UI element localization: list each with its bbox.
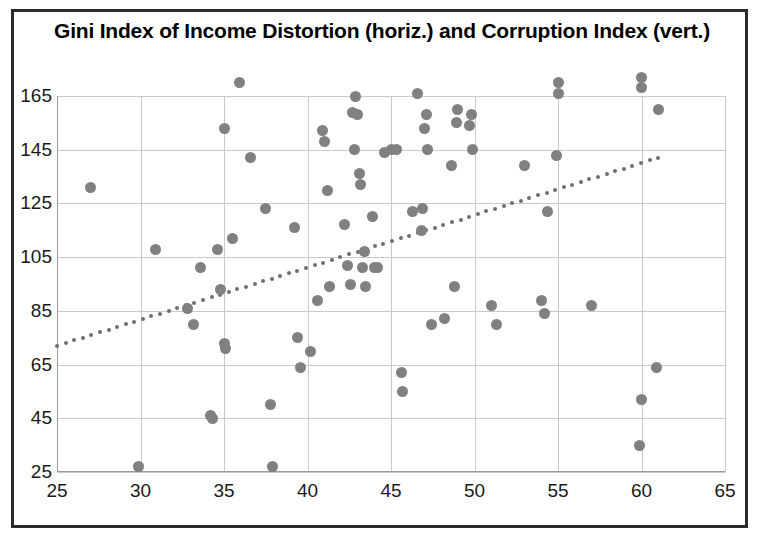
trendline-dot — [304, 266, 308, 270]
trendline-dot — [338, 255, 342, 259]
y-tick-label: 45 — [31, 407, 52, 429]
y-tick-label: 125 — [20, 192, 52, 214]
x-axis-line — [57, 471, 725, 472]
data-point — [317, 125, 328, 136]
y-tick-label: 145 — [20, 139, 52, 161]
data-point — [372, 262, 383, 273]
x-tick-label: 60 — [631, 480, 652, 502]
data-point — [466, 109, 477, 120]
data-point — [636, 72, 647, 83]
data-point — [452, 104, 463, 115]
trendline-dot — [570, 183, 574, 187]
trendline-dot — [467, 215, 471, 219]
y-tick-label: 65 — [31, 354, 52, 376]
data-point — [150, 244, 161, 255]
data-point — [295, 362, 306, 373]
trendline-dot — [330, 258, 334, 262]
x-tick-label: 40 — [297, 480, 318, 502]
trendline-dot — [64, 341, 68, 345]
data-point — [212, 244, 223, 255]
data-point — [651, 362, 662, 373]
data-point — [412, 88, 423, 99]
data-point — [85, 182, 96, 193]
data-point — [312, 295, 323, 306]
trendline-dot — [527, 196, 531, 200]
chart-canvas: Gini Index of Income Distortion (horiz.)… — [14, 12, 745, 525]
x-tick-label: 35 — [213, 480, 234, 502]
trendline-dot — [192, 301, 196, 305]
data-point — [354, 168, 365, 179]
data-point — [319, 136, 330, 147]
data-point — [449, 281, 460, 292]
data-point — [265, 399, 276, 410]
data-point — [486, 300, 497, 311]
trendline-dot — [124, 322, 128, 326]
data-point — [416, 225, 427, 236]
data-point — [519, 160, 530, 171]
gridline-vertical — [141, 96, 142, 472]
data-point — [536, 295, 547, 306]
trendline-dot — [493, 207, 497, 211]
trendline-dot — [141, 317, 145, 321]
data-point — [422, 144, 433, 155]
data-point — [396, 367, 407, 378]
data-point — [360, 281, 371, 292]
trendline-dot — [519, 199, 523, 203]
data-point — [260, 203, 271, 214]
trendline-dot — [459, 218, 463, 222]
data-point — [634, 440, 645, 451]
data-point — [355, 179, 366, 190]
trendline-dot — [381, 242, 385, 246]
gridline-vertical — [224, 96, 225, 472]
trendline-dot — [132, 320, 136, 324]
data-point — [359, 246, 370, 257]
trendline-dot — [553, 188, 557, 192]
gridline-vertical — [642, 96, 643, 472]
trendline-dot — [648, 158, 652, 162]
trendline-dot — [295, 269, 299, 273]
trendline-dot — [562, 185, 566, 189]
trendline-dot — [115, 325, 119, 329]
x-tick-label: 45 — [380, 480, 401, 502]
data-point — [467, 144, 478, 155]
trendline-dot — [605, 172, 609, 176]
chart-title: Gini Index of Income Distortion (horiz.)… — [44, 18, 720, 44]
data-point — [342, 260, 353, 271]
trendline-dot — [476, 212, 480, 216]
trendline-dot — [613, 169, 617, 173]
data-point — [215, 284, 226, 295]
data-point — [182, 303, 193, 314]
trendline-dot — [373, 244, 377, 248]
trendline-dot — [227, 290, 231, 294]
chart-frame: Gini Index of Income Distortion (horiz.)… — [11, 9, 748, 528]
data-point — [653, 104, 664, 115]
y-axis-tick-labels: 25456585105125145165 — [14, 96, 52, 472]
data-point — [292, 332, 303, 343]
data-point — [195, 262, 206, 273]
trendline-dot — [579, 180, 583, 184]
trendline-dot — [107, 328, 111, 332]
data-point — [636, 394, 647, 405]
y-tick-label: 165 — [20, 85, 52, 107]
gridline-horizontal — [57, 472, 725, 473]
x-tick-label: 55 — [547, 480, 568, 502]
data-point — [439, 313, 450, 324]
trendline-dot — [98, 330, 102, 334]
data-point — [636, 82, 647, 93]
data-point — [446, 160, 457, 171]
data-point — [352, 109, 363, 120]
data-point — [451, 117, 462, 128]
data-point — [464, 120, 475, 131]
plot-area — [57, 96, 725, 472]
data-point — [539, 308, 550, 319]
data-point — [553, 77, 564, 88]
trendline-dot — [433, 226, 437, 230]
trendline-dot — [235, 287, 239, 291]
trendline-dot — [89, 333, 93, 337]
trendline-dot — [545, 191, 549, 195]
data-point — [542, 206, 553, 217]
data-point — [188, 319, 199, 330]
trendline-dot — [484, 209, 488, 213]
data-point — [234, 77, 245, 88]
data-point — [267, 461, 278, 472]
